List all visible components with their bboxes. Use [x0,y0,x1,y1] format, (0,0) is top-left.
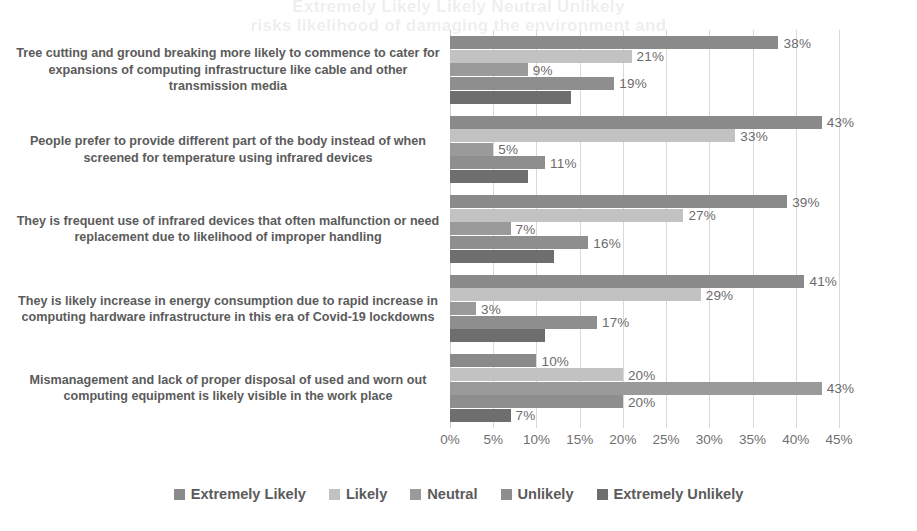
x-tick-20pct: 20% [609,432,636,447]
bar-group: 41%29%3%17% [450,269,847,349]
bar-row: 41% [450,275,847,288]
bar-value-label: 29% [706,287,734,302]
legend-label: Neutral [427,486,477,502]
bar-extremely-likely [450,354,536,367]
bar-row [450,250,847,263]
bar-extremely-unlikely [450,250,554,263]
bar-likely [450,129,735,142]
bar-value-label: 39% [792,194,820,209]
bar-neutral [450,382,822,395]
legend-item[interactable]: Likely [329,486,387,502]
bar-group: 38%21%9%19% [450,30,847,110]
bar-extremely-unlikely [450,170,528,183]
bar-extremely-likely [450,275,804,288]
bar-row: 39% [450,195,847,208]
bar-row: 19% [450,77,847,90]
legend-item[interactable]: Extremely Likely [174,486,306,502]
bar-unlikely [450,156,545,169]
bar-row: 7% [450,409,847,422]
chart-legend: Extremely LikelyLikelyNeutralUnlikelyExt… [0,486,917,502]
bar-row: 9% [450,63,847,76]
bar-value-label: 5% [498,142,518,157]
legend-swatch-icon [597,489,608,500]
category-label: They is likely increase in energy consum… [12,293,444,325]
legend-item[interactable]: Unlikely [501,486,574,502]
bar-neutral [450,222,511,235]
ghost-bleed-text-top: Extremely Likely Likely Neutral Unlikely [0,0,917,17]
x-axis-tick-labels: 0%5%10%15%20%25%30%35%40%45% [450,432,850,454]
bar-value-label: 19% [619,76,647,91]
bar-group: 39%27%7%16% [450,189,847,269]
category-label: People prefer to provide different part … [12,133,444,165]
bar-value-label: 20% [628,367,656,382]
bar-value-label: 10% [541,353,569,368]
bar-likely [450,50,632,63]
x-tick-5pct: 5% [483,432,503,447]
bar-row [450,91,847,104]
bar-row: 38% [450,36,847,49]
x-tick-15pct: 15% [566,432,593,447]
category-label: Tree cutting and ground breaking more li… [12,45,444,94]
bar-neutral [450,63,528,76]
bar-unlikely [450,77,614,90]
bar-value-label: 17% [602,315,630,330]
bar-neutral [450,302,476,315]
legend-label: Unlikely [518,486,574,502]
x-tick-45pct: 45% [825,432,852,447]
bar-row: 5% [450,143,847,156]
bar-group: 10%20%43%20%7% [450,348,847,428]
bar-row: 3% [450,302,847,315]
bar-value-label: 43% [827,381,855,396]
plot-wrapper: Tree cutting and ground breaking more li… [0,30,917,430]
legend-label: Likely [346,486,387,502]
legend-label: Extremely Likely [191,486,306,502]
bar-row: 20% [450,368,847,381]
plot-area: 38%21%9%19%43%33%5%11%39%27%7%16%41%29%3… [450,30,847,428]
bar-row: 33% [450,129,847,142]
bar-extremely-unlikely [450,329,545,342]
bar-unlikely [450,316,597,329]
bar-extremely-likely [450,195,787,208]
x-tick-10pct: 10% [523,432,550,447]
bar-value-label: 7% [516,221,536,236]
bar-row: 10% [450,354,847,367]
bar-extremely-likely [450,36,778,49]
survey-bar-chart: Extremely Likely Likely Neutral Unlikely… [0,0,917,531]
bar-value-label: 38% [783,35,811,50]
bar-row: 7% [450,222,847,235]
legend-swatch-icon [501,489,512,500]
bar-row: 43% [450,382,847,395]
bar-row: 27% [450,209,847,222]
x-tick-35pct: 35% [739,432,766,447]
bar-value-label: 9% [533,62,553,77]
category-label: They is frequent use of infrared devices… [12,213,444,245]
bar-neutral [450,143,493,156]
bar-unlikely [450,236,588,249]
bar-row [450,170,847,183]
bar-row: 21% [450,50,847,63]
legend-swatch-icon [174,489,185,500]
x-tick-25pct: 25% [653,432,680,447]
bar-value-label: 41% [809,274,837,289]
bar-likely [450,209,683,222]
bar-row: 20% [450,395,847,408]
bar-value-label: 3% [481,301,501,316]
bar-value-label: 7% [516,408,536,423]
category-label: Mismanagement and lack of proper disposa… [12,372,444,404]
legend-item[interactable]: Extremely Unlikely [597,486,744,502]
category-label-column: Tree cutting and ground breaking more li… [12,30,444,428]
bar-likely [450,288,701,301]
bar-extremely-unlikely [450,409,511,422]
bar-value-label: 21% [637,49,665,64]
bar-value-label: 16% [593,235,621,250]
legend-swatch-icon [329,489,340,500]
legend-label: Extremely Unlikely [614,486,744,502]
bar-extremely-unlikely [450,91,571,104]
bar-row: 17% [450,316,847,329]
bar-likely [450,368,623,381]
legend-item[interactable]: Neutral [410,486,477,502]
bar-group: 43%33%5%11% [450,110,847,190]
bar-row [450,329,847,342]
bar-value-label: 43% [827,115,855,130]
bar-extremely-likely [450,116,822,129]
